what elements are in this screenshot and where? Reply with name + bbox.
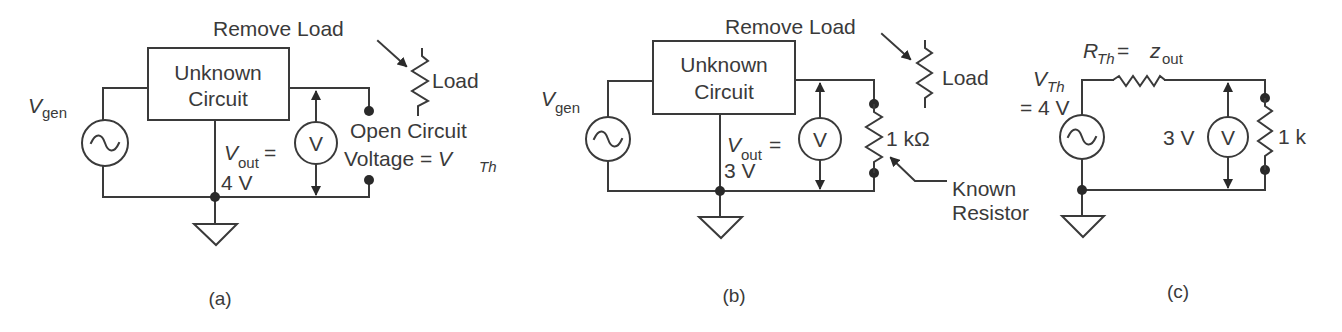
panel-b: Unknown Circuit V gen V 1 kΩ Load Remove…	[541, 15, 1029, 306]
known-resistor-icon	[866, 104, 882, 173]
caption-a: (a)	[208, 288, 231, 309]
load-label: Load	[942, 66, 989, 89]
box-label-line2: Circuit	[694, 80, 754, 103]
remove-load-label: Remove Load	[213, 17, 344, 40]
ac-source-icon	[1060, 115, 1104, 159]
ground-node-dot	[1077, 185, 1087, 195]
vout-eq: =	[769, 133, 781, 156]
svg-text:V: V	[309, 132, 323, 155]
ac-source-icon	[586, 117, 630, 161]
load-resistor-icon	[1258, 98, 1272, 170]
vout-sub: out	[238, 154, 260, 171]
caption-b: (b)	[722, 285, 745, 306]
known-resistor-label-line2: Resistor	[952, 201, 1029, 224]
vth-value: = 4 V	[1020, 96, 1070, 119]
remove-load-label: Remove Load	[725, 15, 856, 38]
wire-right	[795, 80, 874, 104]
thevenin-measurement-figure: Unknown Circuit V gen V Load Remove Lo	[0, 0, 1342, 332]
rth-eq: =	[1117, 39, 1129, 62]
vgen-sub: gen	[42, 104, 67, 121]
remove-load-arrow	[378, 41, 406, 66]
meter-reading: 3 V	[1163, 126, 1195, 149]
terminal-dot-bottom	[364, 175, 374, 185]
known-resistor-pointer	[891, 158, 946, 181]
zout-sub: out	[1162, 50, 1184, 67]
open-circuit-label: Open Circuit	[350, 119, 467, 142]
terminal-dot-top	[364, 106, 374, 116]
ground-icon	[194, 224, 237, 245]
vth-sub: Th	[479, 158, 497, 175]
caption-c: (c)	[1167, 281, 1189, 302]
voltmeter-icon: V	[295, 92, 337, 194]
remove-load-arrow	[882, 34, 910, 59]
zout-label: z	[1149, 39, 1161, 62]
ground-icon	[1062, 216, 1104, 237]
rth-label: R	[1083, 39, 1098, 62]
known-resistor-label-line1: Known	[952, 177, 1016, 200]
vout-value: 3 V	[724, 159, 756, 182]
box-label-line1: Unknown	[174, 61, 262, 84]
svg-text:V: V	[813, 128, 827, 151]
wire-right	[289, 88, 369, 111]
voltmeter-icon: V	[799, 84, 841, 188]
load-label: Load	[432, 69, 479, 92]
box-label-line2: Circuit	[188, 87, 248, 110]
voltmeter-icon: V	[1208, 84, 1248, 187]
resistor-label: 1 k	[1278, 125, 1307, 148]
load-resistor-icon	[917, 40, 932, 108]
vout-eq: =	[264, 141, 276, 164]
panel-c: V 3 V 1 k R Th = z out V Th = 4 V (c)	[1020, 39, 1307, 302]
panel-a: Unknown Circuit V gen V Load Remove Lo	[28, 17, 497, 309]
resistor-label: 1 kΩ	[886, 127, 930, 150]
ac-source-icon	[82, 120, 128, 166]
wire-bottom	[1082, 159, 1265, 216]
rth-sub: Th	[1097, 50, 1115, 67]
vth-sub: Th	[1047, 78, 1065, 95]
vgen-sub: gen	[555, 99, 580, 116]
vout-value: 4 V	[221, 171, 253, 194]
unknown-circuit-box	[653, 41, 795, 114]
rth-resistor-icon	[1113, 76, 1165, 86]
ground-node-dot	[210, 192, 220, 202]
ground-node-dot	[715, 186, 725, 196]
open-circuit-voltage-label: Voltage = V	[344, 147, 454, 170]
box-label-line1: Unknown	[680, 53, 768, 76]
wire-top	[1082, 80, 1265, 115]
ground-icon	[699, 217, 742, 238]
load-resistor-icon	[412, 48, 428, 116]
svg-text:V: V	[1221, 126, 1235, 149]
